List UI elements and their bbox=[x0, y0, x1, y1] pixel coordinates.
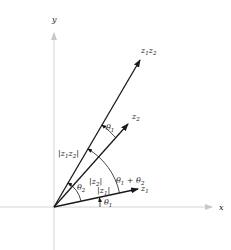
y-axis-label: y bbox=[51, 15, 57, 24]
label-theta2: θ2 bbox=[77, 183, 86, 193]
label-mod-z1z2: |z1z2| bbox=[58, 149, 79, 159]
x-axis-label: x bbox=[219, 203, 224, 212]
label-theta-sum: θ1 + θ2 bbox=[116, 176, 145, 186]
arc-theta1-bottom bbox=[100, 198, 101, 207]
label-mod-z1: |z1| bbox=[97, 186, 110, 196]
vector-z1 bbox=[54, 189, 138, 207]
complex-product-diagram: x y z1z2 z2 z1 θ1 θ1 + θ2 θ2 θ1 |z1z2| |… bbox=[0, 0, 231, 250]
label-z2: z2 bbox=[131, 112, 140, 122]
label-theta1-top: θ1 bbox=[106, 123, 114, 133]
label-z1z2: z1z2 bbox=[140, 46, 157, 56]
vector-z2 bbox=[54, 124, 128, 207]
label-theta1-bottom: θ1 bbox=[104, 198, 112, 208]
